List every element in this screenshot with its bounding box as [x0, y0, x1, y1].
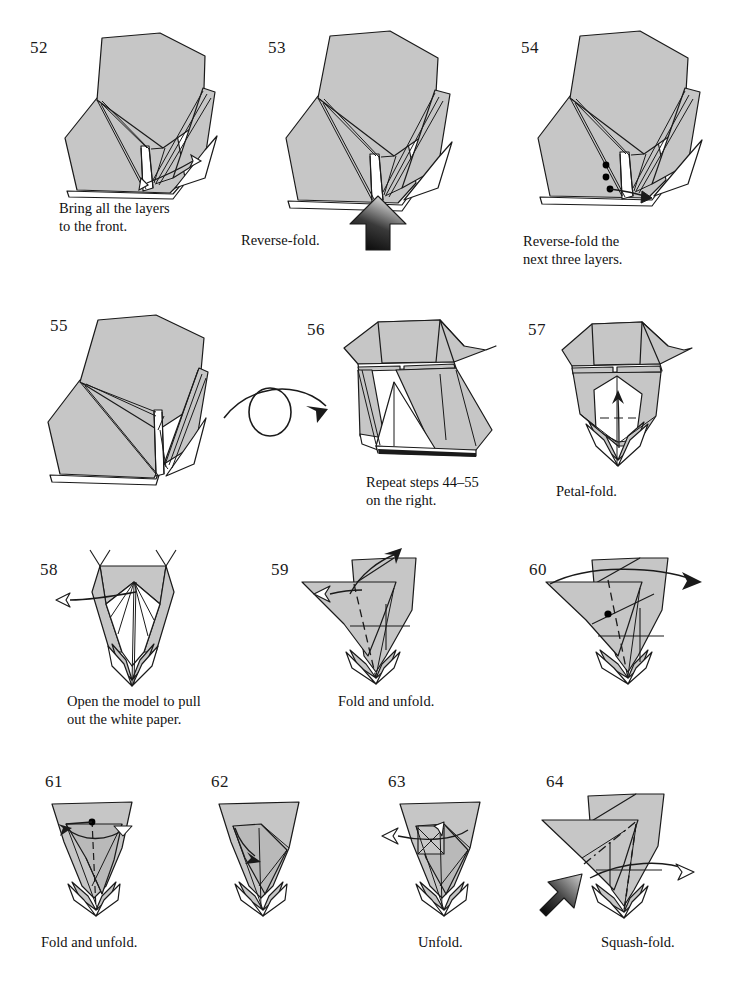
- step-caption-54: Reverse-fold the next three layers.: [523, 233, 713, 268]
- step-caption-53: Reverse-fold.: [241, 232, 421, 250]
- diagram-57-svg: [556, 318, 711, 478]
- diagram-53-svg: [278, 28, 478, 258]
- diagram-58-svg: [48, 548, 218, 688]
- diagram-52: [55, 28, 235, 213]
- diagram-59: [288, 552, 463, 692]
- diagram-56: [336, 316, 526, 471]
- turn-over-symbol: [220, 372, 332, 450]
- step-number-57: 57: [528, 320, 546, 340]
- step-number-64: 64: [546, 772, 564, 792]
- diagram-58: [48, 548, 218, 688]
- diagram-54-svg: [530, 28, 720, 218]
- diagram-59-svg: [288, 552, 463, 692]
- diagram-61: [36, 798, 166, 923]
- step-number-54: 54: [521, 38, 539, 58]
- reference-dot-60: [604, 610, 611, 617]
- step-caption-52: Bring all the layers to the front.: [59, 200, 239, 235]
- step-caption-56: Repeat steps 44–55 on the right.: [366, 474, 556, 509]
- diagram-52-svg: [55, 28, 235, 213]
- diagram-64-svg: [538, 790, 718, 925]
- step-caption-59: Fold and unfold.: [338, 693, 518, 711]
- diagram-55: [36, 312, 221, 487]
- step-number-60: 60: [529, 560, 547, 580]
- diagram-57: [556, 318, 711, 478]
- step-number-56: 56: [307, 320, 325, 340]
- step-number-63: 63: [388, 772, 406, 792]
- step-number-59: 59: [271, 560, 289, 580]
- step-caption-57: Petal-fold.: [556, 483, 706, 501]
- turn-over-svg: [220, 372, 332, 450]
- step-caption-64: Squash-fold.: [601, 934, 739, 952]
- diagram-61-svg: [36, 798, 166, 923]
- step-number-52: 52: [30, 38, 48, 58]
- diagram-55-svg: [36, 312, 221, 487]
- step-caption-63: Unfold.: [418, 934, 538, 952]
- origami-instruction-page: 52 Bring all the layers to the front.: [0, 0, 739, 982]
- diagram-60: [542, 552, 722, 697]
- diagram-60-svg: [542, 552, 722, 697]
- push-arrow-64: [540, 874, 582, 916]
- step-number-55: 55: [50, 316, 68, 336]
- diagram-56-svg: [336, 316, 526, 471]
- step-number-53: 53: [268, 38, 286, 58]
- step-number-62: 62: [211, 772, 229, 792]
- diagram-63-svg: [378, 798, 518, 923]
- diagram-62: [205, 798, 335, 923]
- step-caption-58: Open the model to pull out the white pap…: [67, 693, 267, 728]
- step-caption-61: Fold and unfold.: [41, 934, 221, 952]
- step-number-58: 58: [40, 560, 58, 580]
- diagram-54: [530, 28, 720, 218]
- diagram-64: [538, 790, 718, 925]
- diagram-62-svg: [205, 798, 335, 923]
- diagram-53: [278, 28, 478, 258]
- step-number-61: 61: [45, 772, 63, 792]
- diagram-63: [378, 798, 518, 923]
